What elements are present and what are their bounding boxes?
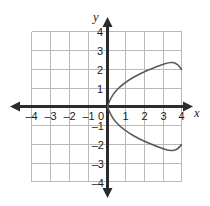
x-tick-label-3: 3 xyxy=(160,110,166,122)
y-tick-label-3: 3 xyxy=(97,45,103,57)
coordinate-plane-figure: –4 –3 –2 –1 0 1 2 3 4 4 3 2 1 –1 –2 –3 –… xyxy=(0,0,210,206)
x-axis-arrow-left-icon xyxy=(10,102,20,112)
y-tick-label-4: 4 xyxy=(97,26,103,38)
x-tick-label--4: –4 xyxy=(25,110,37,122)
x-tick-label-1: 1 xyxy=(122,110,128,122)
x-tick-label--2: –2 xyxy=(63,110,75,122)
y-axis-label: y xyxy=(91,10,99,24)
x-axis-label: x xyxy=(193,106,200,120)
x-tick-label-2: 2 xyxy=(141,110,147,122)
y-axis-arrow-down-icon xyxy=(103,188,113,198)
x-axis-tick-labels: –4 –3 –2 –1 0 1 2 3 4 xyxy=(25,110,184,122)
x-tick-label--3: –3 xyxy=(44,110,56,122)
y-tick-label--3: –3 xyxy=(92,158,104,170)
graph-canvas: –4 –3 –2 –1 0 1 2 3 4 4 3 2 1 –1 –2 –3 –… xyxy=(0,0,210,206)
y-tick-label--2: –2 xyxy=(92,139,104,151)
y-axis-arrow-up-icon xyxy=(103,17,113,27)
y-tick-label--1: –1 xyxy=(92,120,104,132)
y-tick-label--4: –4 xyxy=(92,177,104,189)
y-tick-label-2: 2 xyxy=(97,64,103,76)
y-tick-label-1: 1 xyxy=(97,83,103,95)
x-tick-label-4: 4 xyxy=(178,110,184,122)
